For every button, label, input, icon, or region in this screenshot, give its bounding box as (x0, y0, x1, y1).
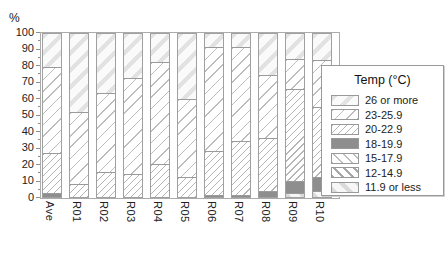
legend-item-label: 15-17.9 (365, 152, 402, 164)
bar-segment-solid-dark (259, 191, 277, 197)
y-major-tick (36, 49, 40, 50)
bar-segment-diag-thin-dense (151, 164, 169, 197)
bar-segment-diag-thin-dense (178, 177, 196, 197)
x-category-label-r09: R09 (287, 201, 299, 223)
legend-entries: 26 or more23-25.920-22.918-19.915-17.912… (322, 93, 443, 195)
y-tick-label: 80 (2, 59, 34, 72)
bar-segment-diag-thin-sparse (70, 112, 88, 184)
legend-item-label: 23-25.9 (365, 109, 402, 121)
legend-item-label: 20-22.9 (365, 123, 402, 135)
bar-r01 (69, 33, 89, 198)
bar-segment-diag-wide-light (313, 34, 331, 60)
y-tick-label: 50 (2, 108, 34, 121)
y-tick-label: 0 (2, 191, 34, 204)
x-category-label-r04: R04 (152, 201, 164, 223)
bar-ave (42, 33, 62, 198)
bar-segment-diag-thin-dense (232, 141, 250, 195)
bar-segment-diag-thin-sparse (151, 62, 169, 165)
y-tick-label: 90 (2, 42, 34, 55)
legend-item: 20-22.9 (322, 122, 443, 137)
bar-segment-diag-wide-light (43, 34, 61, 67)
y-major-tick (36, 98, 40, 99)
bar-segment-diag-wide-light (151, 34, 169, 62)
plot-area (40, 32, 340, 199)
legend-swatch-diag-thin-sparse (331, 109, 359, 120)
bar-r02 (96, 33, 116, 198)
y-major-tick (36, 32, 40, 33)
x-category-label-r08: R08 (260, 201, 272, 223)
x-category-label-r07: R07 (233, 201, 245, 223)
bar-r05 (177, 33, 197, 198)
y-tick-label: 60 (2, 92, 34, 105)
y-major-tick (36, 82, 40, 83)
y-minor-tick (38, 156, 40, 157)
legend-swatch-backdiag-thin-dense (331, 167, 359, 178)
bar-segment-diag-wide-light (97, 34, 115, 93)
bar-segment-diag-thin-dense (97, 172, 115, 197)
bar-r09 (285, 33, 305, 198)
bar-segment-diag-thin-dense (259, 138, 277, 192)
x-category-label-r05: R05 (179, 201, 191, 223)
y-minor-tick (38, 73, 40, 74)
y-major-tick (36, 181, 40, 182)
legend-swatch-backdiag-wide-light (331, 182, 359, 193)
y-minor-tick (38, 106, 40, 107)
legend-item: 18-19.9 (322, 137, 443, 152)
bar-segment-diag-wide-light (259, 34, 277, 75)
bar-r08 (258, 33, 278, 198)
y-major-tick (36, 148, 40, 149)
legend-swatch-diag-thin-dense (331, 124, 359, 135)
legend-item-label: 26 or more (365, 94, 418, 106)
legend-item: 12-14.9 (322, 166, 443, 181)
y-minor-tick (38, 57, 40, 58)
legend-box: Temp (°C) 26 or more23-25.920-22.918-19.… (321, 65, 444, 196)
legend-item: 15-17.9 (322, 151, 443, 166)
bar-segment-diag-thin-dense (70, 184, 88, 197)
x-category-label-r10: R10 (314, 201, 326, 223)
y-axis-unit-label: % (9, 11, 20, 25)
y-minor-tick (38, 172, 40, 173)
bar-r04 (150, 33, 170, 198)
bar-segment-diag-thin-sparse (286, 59, 304, 88)
legend-swatch-backdiag-thin-sparse (331, 153, 359, 164)
bar-segment-diag-thin-dense (124, 174, 142, 197)
bar-segment-diag-wide-light (124, 34, 142, 78)
y-tick-label: 70 (2, 75, 34, 88)
x-category-label-r01: R01 (71, 201, 83, 223)
bar-segment-diag-thin-sparse (43, 67, 61, 153)
bar-segment-diag-thin-sparse (205, 47, 223, 151)
y-minor-tick (38, 139, 40, 140)
y-tick-label: 100 (2, 26, 34, 39)
bar-r07 (231, 33, 251, 198)
bar-segment-diag-thin-dense (43, 153, 61, 193)
y-tick-label: 20 (2, 158, 34, 171)
bar-segment-diag-wide-light (286, 34, 304, 59)
legend-item: 11.9 or less (322, 180, 443, 195)
bar-r06 (204, 33, 224, 198)
y-tick-label: 30 (2, 141, 34, 154)
legend-item-label: 11.9 or less (365, 181, 421, 193)
legend-item-label: 18-19.9 (365, 138, 402, 150)
bar-segment-diag-thin-dense (286, 89, 304, 182)
x-category-label-r06: R06 (206, 201, 218, 223)
y-major-tick (36, 65, 40, 66)
bar-segment-solid-dark (232, 195, 250, 197)
bar-r03 (123, 33, 143, 198)
x-category-label-r02: R02 (98, 201, 110, 223)
bar-segment-solid-dark (205, 195, 223, 197)
bar-segment-diag-thin-sparse (178, 99, 196, 177)
temperature-distribution-chart: % 0102030405060708090100 AveR01R02R03R04… (0, 0, 447, 263)
bar-segment-diag-thin-dense (205, 151, 223, 195)
y-minor-tick (38, 90, 40, 91)
y-major-tick (36, 197, 40, 198)
bar-segment-diag-wide-light (232, 34, 250, 47)
y-major-tick (36, 164, 40, 165)
y-minor-tick (38, 123, 40, 124)
bar-segment-diag-wide-light (70, 34, 88, 112)
bar-segment-diag-wide-light (178, 34, 196, 99)
bar-segment-diag-thin-sparse (232, 47, 250, 141)
legend-title: Temp (°C) (322, 73, 443, 87)
bar-segment-solid-dark (286, 181, 304, 192)
legend-item: 26 or more (322, 93, 443, 108)
y-minor-tick (38, 40, 40, 41)
